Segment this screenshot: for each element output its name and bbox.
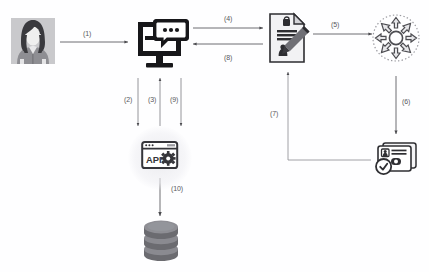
node-credential	[374, 138, 420, 180]
user-avatar-icon	[10, 17, 56, 65]
edge-8-label: (8)	[224, 54, 232, 61]
id-card-verified-icon	[374, 138, 420, 180]
node-hub	[371, 13, 421, 63]
edge-7-label: (7)	[270, 110, 278, 117]
signed-document-pen-icon	[268, 12, 312, 66]
node-api: API	[141, 139, 179, 173]
edge-2-label: (2)	[124, 96, 132, 103]
node-document	[268, 12, 312, 66]
node-user	[10, 17, 56, 65]
api-label: API	[146, 154, 162, 165]
edge-7-line	[288, 72, 371, 160]
flow-diagram: (1) (2) (3) (4) (5) (6) (7) (8) (9) (10)	[0, 0, 429, 272]
edge-1-label: (1)	[83, 30, 91, 37]
edge-lines-layer	[0, 0, 429, 272]
api-gear-window-icon: API	[141, 139, 179, 173]
radial-distribution-icon	[371, 13, 421, 63]
edge-5-label: (5)	[331, 21, 339, 28]
edge-9-label: (9)	[170, 96, 178, 103]
edge-3-label: (3)	[148, 96, 156, 103]
node-database	[141, 217, 181, 263]
node-workstation	[134, 15, 190, 75]
monitor-chat-icon	[134, 15, 190, 75]
database-stack-icon	[141, 217, 181, 263]
edge-6-label: (6)	[402, 98, 410, 105]
edge-4-label: (4)	[224, 15, 232, 22]
